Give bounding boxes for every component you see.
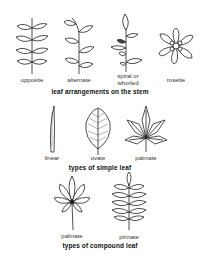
opposite-leaf-arrangement-icon [14, 14, 50, 74]
palmate-compound-leaf-icon [52, 174, 92, 230]
label-ovate: ovate [78, 155, 118, 161]
label-pinnate: pinnate [109, 234, 149, 240]
caption-leaf-arrangements: leaf arrangements on the stem [30, 88, 170, 95]
label-rosette: rosette [156, 77, 196, 83]
rosette-leaf-arrangement-icon [158, 28, 194, 64]
caption-simple-leaf: types of simple leaf [50, 164, 150, 171]
pinnate-compound-leaf-icon [110, 172, 148, 230]
linear-leaf-icon [48, 106, 56, 152]
label-alternate: alternate [59, 77, 99, 83]
label-palmate-compound: palmate [52, 233, 92, 239]
ovate-leaf-icon [84, 107, 112, 155]
alternate-leaf-arrangement-icon [62, 14, 96, 74]
label-opposite: opposite [12, 77, 52, 83]
caption-compound-leaf: types of compound leaf [40, 242, 160, 249]
label-spiral-or: spiral or [108, 73, 148, 79]
spiral-leaf-arrangement-icon [108, 12, 148, 72]
label-palmate-simple: palmate [125, 155, 167, 161]
label-whorled: whorled [108, 80, 148, 86]
palmate-simple-leaf-icon [125, 106, 167, 152]
label-linear: linear [32, 155, 72, 161]
